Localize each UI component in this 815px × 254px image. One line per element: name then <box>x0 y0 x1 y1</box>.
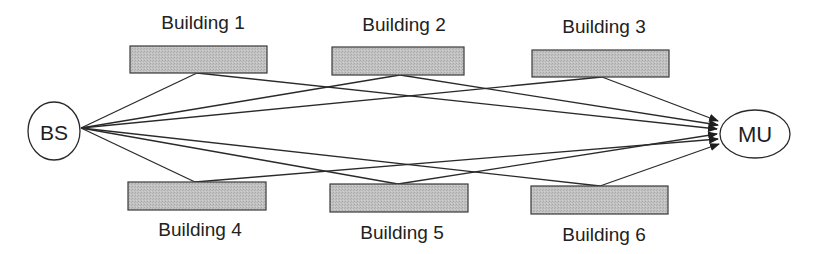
reflected-ray-3 <box>602 77 718 121</box>
building-3-block <box>532 50 669 77</box>
building-5-block <box>330 184 468 212</box>
multipath-diagram: BS MU Building 1 Building 2 Building 3 B… <box>0 0 815 254</box>
building-2-label: Building 2 <box>362 15 445 34</box>
buildings-group <box>128 46 669 214</box>
reflected-ray-4 <box>195 139 718 182</box>
building-4-label: Building 4 <box>158 220 241 239</box>
building-6-label: Building 6 <box>562 225 645 244</box>
diagram-canvas <box>0 0 815 254</box>
building-1-block <box>130 46 267 73</box>
building-4-block <box>128 182 266 210</box>
signal-paths <box>81 73 719 186</box>
building-3-label: Building 3 <box>562 17 645 36</box>
incident-ray-1 <box>81 73 197 128</box>
reflected-ray-5 <box>398 134 717 184</box>
building-2-block <box>332 47 464 75</box>
mobile-unit-label: MU <box>738 124 772 146</box>
building-6-block <box>531 186 668 214</box>
reflected-ray-6 <box>600 144 719 186</box>
building-5-label: Building 5 <box>360 223 443 242</box>
building-1-label: Building 1 <box>161 13 244 32</box>
base-station-label: BS <box>40 122 68 143</box>
incident-ray-6 <box>81 128 600 186</box>
incident-ray-5 <box>81 128 398 184</box>
reflected-ray-1 <box>197 73 717 129</box>
incident-ray-4 <box>81 128 195 182</box>
